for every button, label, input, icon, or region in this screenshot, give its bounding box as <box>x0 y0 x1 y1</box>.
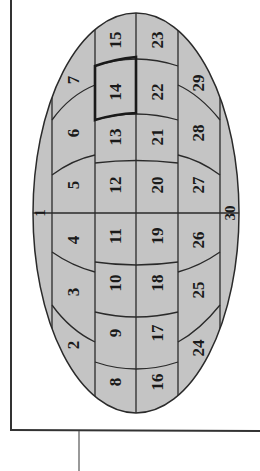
region-label-27: 27 <box>189 176 208 194</box>
region-label-10: 10 <box>106 275 125 292</box>
region-label-2: 2 <box>64 341 83 350</box>
region-label-23: 23 <box>148 32 167 49</box>
region-label-13: 13 <box>106 129 125 146</box>
region-label-30: 30 <box>222 206 238 221</box>
region-label-28: 28 <box>189 125 208 142</box>
region-label-9: 9 <box>106 329 125 338</box>
region-label-20: 20 <box>148 177 167 194</box>
region-label-22: 22 <box>148 84 167 101</box>
region-label-4: 4 <box>64 235 83 244</box>
region-label-14: 14 <box>106 83 125 101</box>
region-label-1: 1 <box>32 209 48 217</box>
region-label-15: 15 <box>106 32 125 49</box>
region-label-29: 29 <box>189 75 208 92</box>
region-label-18: 18 <box>148 275 167 292</box>
region-label-16: 16 <box>148 374 167 391</box>
region-label-5: 5 <box>64 181 83 190</box>
region-label-11: 11 <box>106 228 125 244</box>
region-label-7: 7 <box>64 75 83 84</box>
ellipse-diagram: 1234567891011121314151617181920212223242… <box>0 0 260 471</box>
region-label-26: 26 <box>189 232 208 249</box>
region-label-25: 25 <box>189 282 208 299</box>
region-label-3: 3 <box>64 288 83 297</box>
region-label-19: 19 <box>148 228 167 245</box>
region-label-21: 21 <box>148 129 167 146</box>
region-label-24: 24 <box>189 339 208 357</box>
region-label-8: 8 <box>106 378 125 387</box>
region-label-12: 12 <box>106 177 125 194</box>
region-label-6: 6 <box>64 129 83 138</box>
frame-bottom-line <box>10 430 260 431</box>
region-label-17: 17 <box>148 324 167 342</box>
